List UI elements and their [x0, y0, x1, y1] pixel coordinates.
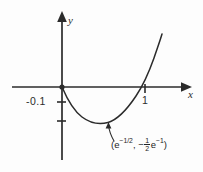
y-axis-arrowhead [57, 11, 67, 22]
x-tick-label-1: 1 [142, 94, 148, 106]
figure-container: y x -0.1 1 (e−1/2, −12e−1) [0, 0, 203, 172]
annotation-e-exponent: −1/2 [119, 137, 132, 144]
y-axis-label: y [68, 14, 73, 26]
minimum-point-annotation: (e−1/2, −12e−1) [111, 137, 167, 153]
origin-dot [59, 84, 64, 89]
annotation-minus-sign: − [138, 140, 144, 150]
annotation-e-exponent-2: −1 [156, 137, 164, 144]
annotation-fraction-one-half: 12 [144, 137, 150, 153]
plot-canvas [0, 0, 203, 172]
annotation-close-paren: ) [164, 140, 167, 150]
fraction-denominator: 2 [144, 144, 150, 152]
fraction-numerator: 1 [144, 137, 150, 144]
y-tick-label-neg-0-1: -0.1 [26, 95, 46, 107]
curve-x-ln-x [62, 34, 162, 124]
x-axis-label: x [188, 88, 193, 100]
annotation-comma: , [133, 140, 136, 150]
